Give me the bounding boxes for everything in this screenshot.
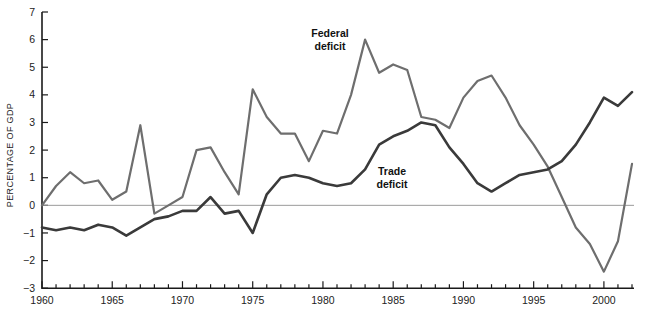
x-tick-label-2000: 2000 [592,294,616,306]
y-tick-label-0: 0 [29,199,35,211]
annotation-federal-deficit: Federal deficit [311,27,348,52]
x-tick-label-1970: 1970 [171,294,195,306]
x-tick-label-1995: 1995 [522,294,546,306]
y-tick-label-5: 5 [29,61,35,73]
x-tick-label-1975: 1975 [241,294,265,306]
x-tick-label-1990: 1990 [452,294,476,306]
x-tick-label-1980: 1980 [311,294,335,306]
y-axis-title: PERCENTAGE OF GDP [5,103,15,207]
y-tick-label-4: 4 [29,88,35,100]
trade-deficit-label-line1: Trade [378,165,406,177]
trade-deficit-label-line2: deficit [377,178,408,190]
y-tick-label--2: −2 [23,254,35,266]
y-tick-label-3: 3 [29,116,35,128]
y-axis-label: PERCENTAGE OF GDP [5,103,15,207]
x-tick-label-1985: 1985 [382,294,406,306]
y-tick-label--1: −1 [23,227,35,239]
chart-container: PERCENTAGE OF GDP 76543210−1−2−3 1960196… [0,0,647,320]
gdp-deficit-line-chart: PERCENTAGE OF GDP 76543210−1−2−3 1960196… [0,0,647,320]
y-tick-label-1: 1 [29,171,35,183]
x-tick-label-1960: 1960 [30,294,54,306]
y-tick-label-2: 2 [29,144,35,156]
y-tick-label-7: 7 [29,6,35,18]
federal-deficit-label-line2: deficit [315,40,346,52]
federal-deficit-label-line1: Federal [311,27,348,39]
annotation-trade-deficit: Trade deficit [377,165,408,190]
y-tick-label-6: 6 [29,33,35,45]
x-tick-label-1965: 1965 [101,294,125,306]
y-tick-label--3: −3 [23,282,35,294]
